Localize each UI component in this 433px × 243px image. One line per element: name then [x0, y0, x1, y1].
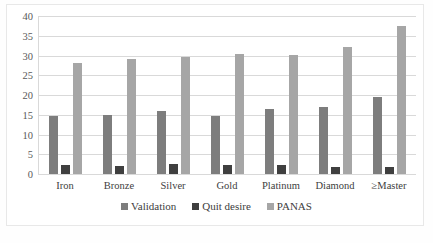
y-axis-tick-label: 25	[23, 70, 34, 81]
chart-legend: ValidationQuit desirePANAS	[0, 200, 433, 212]
legend-label: PANAS	[277, 200, 312, 212]
plot-area: 0510152025303540	[38, 16, 416, 175]
bar-group	[308, 15, 362, 174]
bar-chart: 0510152025303540 ValidationQuit desirePA…	[0, 0, 433, 243]
gridline	[38, 174, 416, 175]
bar-quit-desire	[61, 165, 70, 174]
bar-panas	[289, 55, 298, 174]
bar-validation	[49, 116, 58, 174]
bar-validation	[211, 116, 220, 174]
bar-group	[92, 15, 146, 174]
bar-quit-desire	[223, 165, 232, 174]
y-axis-tick-label: 20	[23, 90, 34, 101]
bar-quit-desire	[331, 167, 340, 174]
bar-group	[146, 15, 200, 174]
bar-group	[38, 15, 92, 174]
bar-group	[200, 15, 254, 174]
bar-quit-desire	[115, 166, 124, 174]
x-axis-tick-label: Silver	[146, 180, 200, 191]
legend-item-quit-desire[interactable]: Quit desire	[192, 200, 251, 212]
y-axis-tick-label: 10	[23, 129, 34, 140]
bar-panas	[235, 54, 244, 174]
bar-panas	[127, 59, 136, 174]
x-axis-tick-label: Gold	[200, 180, 254, 191]
y-axis-tick-label: 15	[23, 109, 34, 120]
legend-label: Quit desire	[202, 200, 251, 212]
legend-label: Validation	[131, 200, 176, 212]
legend-swatch-icon	[121, 203, 128, 210]
bar-validation	[103, 115, 112, 174]
bar-validation	[265, 109, 274, 174]
legend-swatch-icon	[192, 203, 199, 210]
x-axis-tick-label: ≥Master	[362, 180, 416, 191]
y-axis-tick-label: 5	[28, 149, 33, 160]
x-axis-tick-label: Iron	[38, 180, 92, 191]
y-axis-tick-label: 35	[23, 30, 34, 41]
x-axis-tick-label: Diamond	[308, 180, 362, 191]
bar-panas	[343, 47, 352, 174]
bar-group	[254, 15, 308, 174]
bar-quit-desire	[277, 165, 286, 174]
y-axis-tick-label: 40	[23, 11, 34, 22]
bar-quit-desire	[385, 167, 394, 174]
legend-item-panas[interactable]: PANAS	[267, 200, 312, 212]
y-axis-tick-label: 30	[23, 50, 34, 61]
bar-panas	[73, 63, 82, 174]
bar-validation	[319, 107, 328, 174]
bar-validation	[373, 97, 382, 174]
bar-group	[362, 15, 416, 174]
y-axis-tick-label: 0	[28, 169, 33, 180]
x-axis-tick-label: Platinum	[254, 180, 308, 191]
legend-swatch-icon	[267, 203, 274, 210]
bar-panas	[397, 26, 406, 174]
x-axis-tick-label: Bronze	[92, 180, 146, 191]
bar-quit-desire	[169, 164, 178, 174]
bar-validation	[157, 111, 166, 174]
bar-panas	[181, 57, 190, 174]
legend-item-validation[interactable]: Validation	[121, 200, 176, 212]
